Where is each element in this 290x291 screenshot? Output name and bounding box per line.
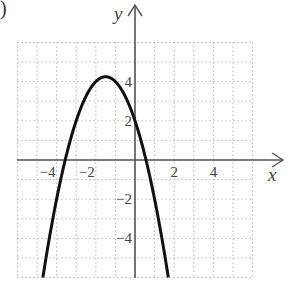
y-tick-label: −4: [116, 230, 132, 246]
x-tick-label: −4: [40, 164, 56, 180]
axes: [17, 5, 283, 278]
parabola-curve: [43, 77, 168, 278]
graph: −4−22442−2−4 x y ): [0, 0, 290, 291]
x-tick-label: 2: [170, 164, 178, 180]
x-axis-label: x: [267, 164, 277, 185]
y-tick-label: −2: [116, 191, 132, 207]
y-tick-label: 2: [125, 113, 133, 129]
y-tick-label: 4: [125, 74, 133, 90]
part-label: ): [0, 0, 7, 20]
y-axis-label: y: [112, 3, 123, 24]
x-tick-label: 4: [210, 164, 218, 180]
x-tick-label: −2: [79, 164, 95, 180]
